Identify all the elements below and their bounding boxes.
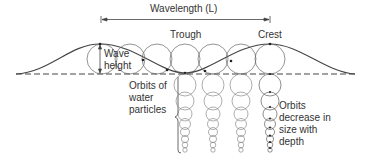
orbits-label-line3: particles [129,104,166,115]
wavelength-text: Wavelength (L) [150,3,217,14]
wave-height-arrow [99,45,102,73]
decrease-label-line1: Orbits [279,100,306,111]
orbit-column-1 [174,74,196,152]
decrease-label-line4: depth [279,136,304,147]
decrease-label-line3: size with [279,124,317,135]
trough-label: Trough [170,29,201,40]
wavelength-label: Wavelength (L) [150,3,217,14]
diagram-graphics [0,0,366,161]
orbit-column-4 [259,73,281,152]
decrease-label-line2: decrease in [279,112,331,123]
orbits-label-line2: water [129,92,153,103]
orbit-column-2 [202,74,224,152]
wave-height-label-line1: Wave [104,48,129,59]
wave-height-label-line2: height [104,60,131,71]
wavelength-arrow [101,16,270,23]
orbit-column-3 [230,74,252,152]
crest-label: Crest [258,29,282,40]
orbits-label-line1: Orbits of [129,80,167,91]
wave-profile [16,44,355,74]
depth-orbit-columns [174,73,281,152]
wave-orbit-diagram: Wavelength (L) Trough Crest Wave height … [0,0,366,161]
